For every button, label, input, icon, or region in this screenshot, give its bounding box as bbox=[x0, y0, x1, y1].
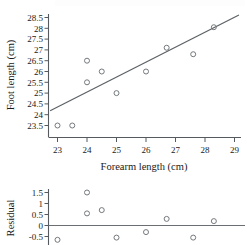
scatter-x-tick-label: 26 bbox=[142, 145, 152, 155]
scatter-y-axis-title: Foot length (cm) bbox=[5, 39, 17, 110]
residual-y-tick-label: -0.5 bbox=[29, 232, 44, 242]
scatter-y-tick-label: 25 bbox=[34, 88, 44, 98]
residual-y-tick-label: 0.5 bbox=[32, 210, 44, 220]
scatter-y-tick-label: 25.5 bbox=[27, 78, 43, 88]
statistics-figure: 28.5 28 27.5 27 26.5 26 25.5 25 24.5 24 … bbox=[0, 0, 247, 245]
figure-canvas: 28.5 28 27.5 27 26.5 26 25.5 25 24.5 24 … bbox=[0, 0, 247, 245]
scatter-x-tick-label: 25 bbox=[112, 145, 122, 155]
scatter-y-tick-label: 27 bbox=[34, 45, 44, 55]
scatter-x-tick-label: 29 bbox=[230, 145, 240, 155]
residual-y-tick-label: 1.5 bbox=[32, 188, 44, 198]
scatter-x-axis-title: Forearm length (cm) bbox=[101, 161, 188, 173]
residual-y-tick-label: 1 bbox=[39, 199, 44, 209]
residual-y-axis-title: Residual bbox=[5, 200, 16, 237]
scatter-y-tick-label: 27.5 bbox=[27, 34, 43, 44]
cropped-top-strip bbox=[55, 0, 245, 6]
scatter-x-tick-label: 28 bbox=[201, 145, 211, 155]
scatter-x-tick-label: 27 bbox=[171, 145, 181, 155]
scatter-y-tick-label: 23.5 bbox=[27, 121, 43, 131]
residual-y-tick-label: 0 bbox=[39, 221, 44, 231]
scatter-y-tick-label: 28 bbox=[34, 24, 44, 34]
scatter-y-tick-label: 28.5 bbox=[27, 13, 43, 23]
scatter-y-tick-label: 26 bbox=[34, 67, 44, 77]
scatter-x-tick-label: 23 bbox=[53, 145, 63, 155]
scatter-y-tick-label: 26.5 bbox=[27, 56, 43, 66]
scatter-y-tick-label: 24 bbox=[34, 110, 44, 120]
scatter-y-tick-label: 24.5 bbox=[27, 99, 43, 109]
residual-y-tick-labels: 1.5 1 0.5 0 -0.5 bbox=[29, 188, 44, 242]
scatter-x-tick-label: 24 bbox=[83, 145, 93, 155]
